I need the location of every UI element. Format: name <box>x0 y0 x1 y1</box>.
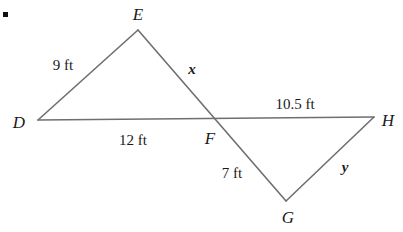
segment-g-to-h <box>286 117 374 201</box>
side-length-label-df: 12 ft <box>119 133 147 148</box>
side-length-label-de: 9 ft <box>53 58 73 73</box>
side-length-label-gh-unknown-y: y <box>342 160 349 175</box>
side-length-label-fh: 10.5 ft <box>275 97 314 112</box>
vertex-label-h: H <box>382 112 394 129</box>
geometry-line-drawing <box>0 0 403 232</box>
geometry-figure: E D F H G 9 ft x 12 ft 10.5 ft 7 ft y <box>0 0 403 232</box>
vertex-label-d: D <box>13 114 25 131</box>
vertex-label-g: G <box>282 209 294 226</box>
vertex-label-e: E <box>133 6 143 23</box>
segment-e-through-f-to-g <box>138 30 286 201</box>
segment-d-to-h <box>38 117 374 120</box>
vertex-label-f: F <box>205 130 215 147</box>
side-length-label-ef-unknown-x: x <box>188 62 196 77</box>
side-length-label-fg: 7 ft <box>222 166 242 181</box>
segment-d-to-e <box>38 30 138 120</box>
